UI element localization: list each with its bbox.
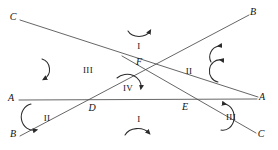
region-label-bottom: I	[137, 115, 140, 124]
arc-bottom-left	[21, 104, 36, 130]
region-label-top: I	[137, 42, 140, 51]
region-label-center: IV	[123, 84, 133, 93]
point-label-A-right: A	[259, 92, 265, 102]
arc-top	[128, 31, 150, 36]
point-label-B-top: B	[250, 7, 256, 17]
point-label-E: E	[182, 102, 188, 112]
point-label-C-bottom: C	[258, 129, 265, 139]
geometry-diagram: C B A A B C D E F I II III IV I II III	[0, 0, 278, 150]
arc-upper-left	[42, 59, 50, 79]
diagram-canvas	[0, 0, 278, 150]
point-label-F: F	[136, 57, 142, 67]
point-label-C-top: C	[10, 12, 17, 22]
point-label-D: D	[88, 103, 95, 113]
arc-right	[209, 60, 221, 82]
region-label-bottom-left: II	[44, 114, 51, 123]
region-label-bottom-right: III	[226, 113, 236, 122]
line-A-left-to-A-right	[19, 99, 257, 100]
arc-bottom	[125, 129, 149, 135]
point-label-A-left: A	[8, 93, 14, 103]
point-label-B-bottom: B	[10, 129, 16, 139]
region-label-right: II	[186, 67, 193, 76]
region-label-left: III	[83, 66, 93, 75]
